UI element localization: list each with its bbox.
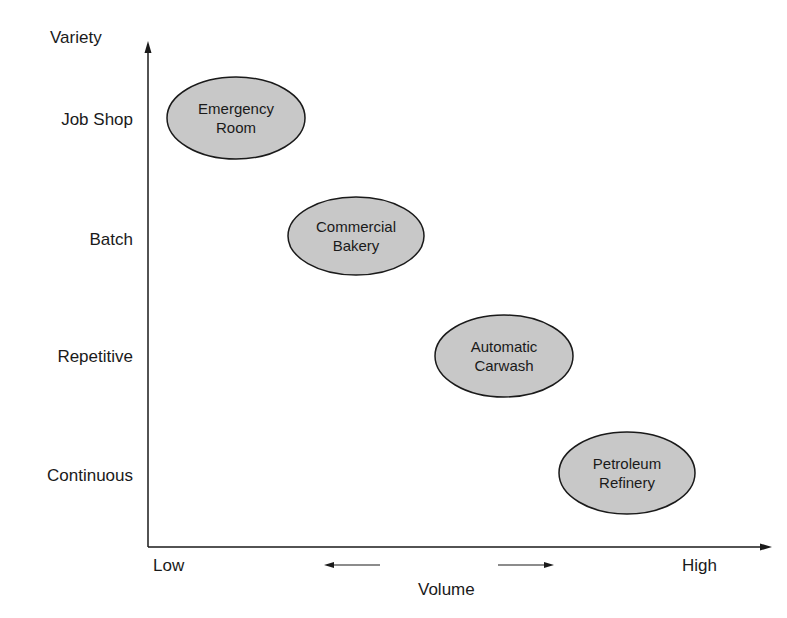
x-axis-high-label: High (682, 556, 717, 576)
x-axis-title: Volume (418, 580, 475, 600)
process-automatic-carwash: Automatic Carwash (434, 337, 574, 375)
process-line1: Emergency (166, 99, 306, 118)
process-petroleum-refinery: Petroleum Refinery (557, 454, 697, 492)
process-line2: Room (166, 118, 306, 137)
y-level-job-shop: Job Shop (61, 110, 133, 130)
x-axis-arrow-icon (760, 544, 772, 551)
y-level-continuous: Continuous (47, 466, 133, 486)
y-axis-arrow-icon (145, 41, 152, 53)
y-level-batch: Batch (90, 230, 133, 250)
process-line2: Carwash (434, 356, 574, 375)
volume-right-arrow-icon (544, 562, 554, 568)
x-axis-low-label: Low (153, 556, 184, 576)
volume-left-arrow-icon (324, 562, 334, 568)
process-line2: Bakery (286, 236, 426, 255)
diagram-canvas (0, 0, 787, 618)
y-level-repetitive: Repetitive (57, 347, 133, 367)
process-commercial-bakery: Commercial Bakery (286, 217, 426, 255)
process-emergency-room: Emergency Room (166, 99, 306, 137)
process-line1: Commercial (286, 217, 426, 236)
process-line1: Petroleum (557, 454, 697, 473)
process-line2: Refinery (557, 473, 697, 492)
y-axis-title: Variety (50, 28, 102, 48)
process-line1: Automatic (434, 337, 574, 356)
